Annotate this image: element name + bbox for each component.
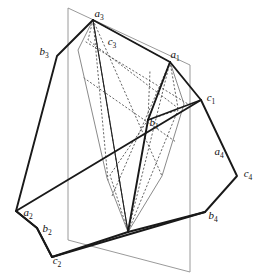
label-c2-sub: 2 — [58, 260, 62, 269]
top-ridge-a3-a1 — [93, 20, 170, 62]
bottom-chord-c2-b4 — [52, 212, 205, 257]
right-solid-outline — [128, 62, 237, 232]
label-c2: c2 — [53, 254, 62, 269]
inner-edge-right-lower — [162, 104, 184, 176]
label-a3-sub: 3 — [100, 13, 104, 22]
figure-canvas: a3 c3 a1 b3 c1 b1 a4 c4 a2 b2 b4 c2 — [0, 0, 265, 278]
inner-thin-edges — [78, 20, 184, 232]
label-a4-sub: 4 — [220, 151, 224, 160]
label-b4-sub: 4 — [214, 215, 218, 224]
label-a1-sub: 1 — [176, 54, 180, 63]
label-a1: a1 — [170, 48, 180, 63]
dotted-kite-upper — [88, 20, 178, 108]
label-b2-sub: 2 — [48, 228, 52, 237]
dotted-b1-strut — [148, 70, 150, 120]
label-a2-sub: 2 — [29, 212, 33, 221]
label-b3-sub: 3 — [45, 51, 49, 60]
label-c3: c3 — [108, 35, 117, 50]
label-a3: a3 — [94, 7, 104, 22]
dotted-ray-a1-down — [112, 62, 170, 196]
inner-edge-left-apex — [107, 178, 128, 232]
dotted-ray-cross — [93, 20, 162, 176]
label-b4: b4 — [208, 209, 218, 224]
solid-outlines — [16, 20, 237, 257]
label-b1-sub: 1 — [155, 122, 159, 131]
label-c3-sub: 3 — [113, 41, 117, 50]
geometry-figure: a3 c3 a1 b3 c1 b1 a4 c4 a2 b2 b4 c2 — [0, 0, 265, 278]
dotted-band-lower — [84, 78, 176, 142]
label-b1: b1 — [149, 116, 159, 131]
label-c1: c1 — [207, 91, 216, 106]
label-c4: c4 — [244, 167, 253, 182]
left-solid-outline — [16, 20, 128, 257]
label-c1-sub: 1 — [212, 97, 216, 106]
label-c4-sub: 4 — [249, 173, 253, 182]
edge-a3-inner — [93, 20, 128, 232]
dotted-kite-lower — [110, 110, 178, 232]
inner-edge-left-upper — [78, 20, 93, 50]
label-b2: b2 — [42, 222, 52, 237]
label-b3: b3 — [39, 45, 49, 60]
